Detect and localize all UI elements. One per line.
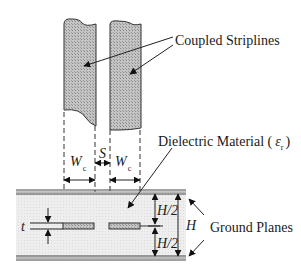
striplines-label: Coupled Striplines	[175, 33, 280, 48]
ground-plane-top	[16, 190, 186, 194]
stripline-diagram: t Wc Wc S H/2 H/2 H Coupled Striplines D…	[0, 0, 301, 275]
half-height-label-top: H/2	[156, 203, 178, 218]
ground-planes-label: Ground Planes	[210, 220, 293, 235]
height-label: H	[185, 218, 197, 233]
conductor-left	[63, 223, 94, 229]
half-height-label-bottom: H/2	[156, 236, 178, 251]
ground-plane-bottom	[16, 256, 186, 260]
stripline-top-left	[64, 19, 96, 126]
width-label-left: Wc	[70, 154, 87, 173]
conductor-right	[109, 223, 140, 229]
spacing-label: S	[99, 146, 106, 161]
stripline-top-right	[110, 21, 141, 130]
dielectric-label: Dielectric Material (εr)	[158, 134, 290, 152]
width-label-right: Wc	[115, 154, 132, 173]
